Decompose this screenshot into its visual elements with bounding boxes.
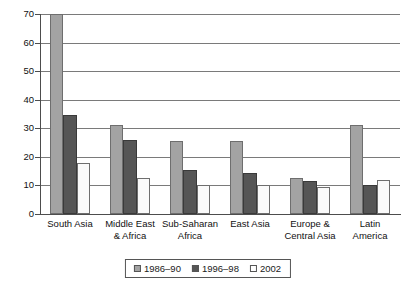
y-axis-tick-label: 40 (10, 95, 34, 105)
gridline (40, 128, 400, 129)
dark-gray-swatch (192, 265, 199, 272)
bar (290, 178, 304, 214)
y-axis-tick-label: 60 (10, 38, 34, 48)
gridline (40, 43, 400, 44)
gridline (40, 71, 400, 72)
y-axis-line (40, 14, 41, 215)
bar (350, 125, 364, 214)
bar (137, 178, 151, 214)
y-axis-tick-label: 70 (10, 9, 34, 19)
x-axis-category-label-line: Latin (334, 218, 406, 230)
bar (230, 141, 244, 214)
bar (63, 115, 77, 214)
bar (377, 180, 391, 214)
bar-group (170, 14, 211, 214)
bar (77, 163, 91, 214)
y-axis-tick-label: 0 (10, 209, 34, 219)
legend-item-label: 1996–98 (202, 263, 239, 274)
bar-group (110, 14, 151, 214)
x-axis-category-label-line: Africa (154, 230, 226, 242)
bar-group (50, 14, 91, 214)
chart-legend: 1986–901996–982002 (125, 259, 291, 278)
bar (243, 173, 257, 214)
bar-chart: 010203040506070 South AsiaMiddle East& A… (0, 0, 416, 291)
x-axis-category-label-line: America (334, 230, 406, 242)
bar (110, 125, 124, 214)
legend-item-label: 2002 (260, 263, 281, 274)
legend-item[interactable]: 1986–90 (134, 263, 181, 274)
gridline (40, 100, 400, 101)
bar-group (290, 14, 331, 214)
bar (183, 170, 197, 214)
legend-item[interactable]: 2002 (250, 263, 281, 274)
x-axis-line (40, 214, 401, 215)
gridline (40, 185, 400, 186)
bar (363, 185, 377, 214)
legend-item[interactable]: 1996–98 (192, 263, 239, 274)
bar (317, 187, 331, 214)
legend-item-label: 1986–90 (144, 263, 181, 274)
x-axis-category-label: LatinAmerica (334, 218, 406, 241)
bar (257, 185, 271, 214)
y-axis-tick-label: 50 (10, 66, 34, 76)
y-axis-tick-label: 30 (10, 123, 34, 133)
bar (170, 141, 184, 214)
gridline (40, 157, 400, 158)
bar (50, 14, 64, 214)
y-axis-tick-label: 20 (10, 152, 34, 162)
bar-group (350, 14, 391, 214)
bar (197, 185, 211, 214)
bar (123, 140, 137, 214)
bar-group (230, 14, 271, 214)
white-swatch (250, 265, 257, 272)
light-gray-swatch (134, 265, 141, 272)
bar (303, 181, 317, 214)
y-axis-tick-label: 10 (10, 180, 34, 190)
gridline (40, 14, 400, 15)
plot-area (40, 14, 400, 214)
